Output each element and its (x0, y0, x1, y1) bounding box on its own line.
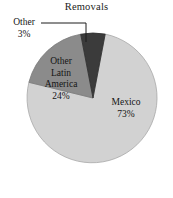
slice-label-ola-line1: Other (38, 56, 84, 68)
slice-label-ola-line3: America (38, 79, 84, 91)
slice-label-other: Other 3% (2, 17, 46, 40)
slice-label-other-name: Other (2, 17, 46, 29)
slice-label-mexico-name: Mexico (100, 97, 152, 109)
slice-label-mexico-pct: 73% (100, 109, 152, 121)
slice-label-ola-line2: Latin (38, 68, 84, 80)
slice-label-other-pct: 3% (2, 29, 46, 41)
slice-label-other-latin-america: Other Latin America 24% (38, 56, 84, 102)
slice-label-mexico: Mexico 73% (100, 97, 152, 120)
pie-chart-figure: Removals Other 3% Other Latin America 24… (0, 0, 173, 198)
slice-label-ola-pct: 24% (38, 91, 84, 103)
